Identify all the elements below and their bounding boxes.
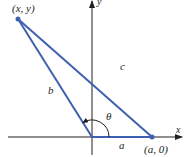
side-c-line: [18, 19, 152, 137]
side-c-label: c: [120, 60, 125, 72]
law-of-cosines-diagram: (x, y) (a, 0) x y c b a θ: [0, 0, 185, 157]
vertex-xy-label: (x, y): [12, 2, 35, 15]
side-a-label: a: [119, 139, 125, 151]
x-axis-label: x: [175, 124, 181, 135]
vertex-xy-point: [16, 17, 21, 22]
vertex-a0-label: (a, 0): [144, 143, 168, 156]
vertex-a0-point: [150, 135, 155, 140]
side-b-line: [18, 19, 92, 137]
angle-theta-label: θ: [106, 110, 112, 122]
y-axis-label: y: [96, 0, 102, 7]
side-b-label: b: [48, 84, 54, 96]
